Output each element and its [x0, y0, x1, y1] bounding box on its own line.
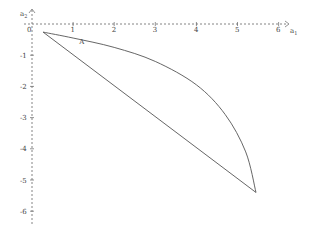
x-tick-label: 5: [235, 26, 239, 34]
y-tick-label: -5: [20, 177, 27, 185]
x-axis-label: a1: [290, 27, 297, 36]
y-tick-label: -1: [20, 52, 27, 60]
y-axis-label: a2: [20, 10, 27, 19]
y-tick-label: -2: [20, 83, 27, 91]
annotation-label: A: [78, 38, 85, 46]
x-tick-label: 2: [112, 26, 116, 34]
x-tick-label: 0: [27, 26, 31, 34]
x-tick-label: 4: [194, 26, 199, 34]
y-tick-label: -3: [20, 114, 27, 122]
y-tick-label: -4: [20, 145, 27, 153]
chart: 0123456 -1-2-3-4-5-6 a1 a2 A: [0, 0, 313, 231]
x-tick-label: 3: [153, 26, 157, 34]
x-tick-label: 1: [71, 26, 75, 34]
x-tick-label: 6: [276, 26, 281, 34]
y-tick-label: -6: [20, 208, 27, 216]
